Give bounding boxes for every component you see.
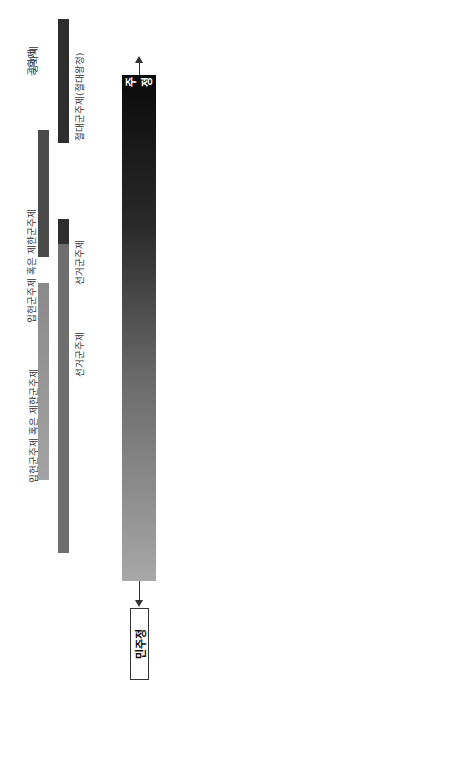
bar-absolute-monarchy: [58, 19, 69, 143]
bar-republic: [38, 283, 49, 480]
label-republic: 공화제: [24, 49, 38, 76]
bar-constitutional-monarchy: [38, 130, 49, 257]
label-elective-monarchy: 선거군주제: [72, 332, 86, 377]
bar-elective-monarchy: [58, 244, 69, 378]
diagram: 공화제 선거군주제 입헌군주제 혹은 제한군주제 절대군주제(절대왕정): [0, 0, 466, 773]
label-constitutional-monarchy: 입헌군주제 혹은 제한군주제: [24, 209, 38, 323]
label-absolute-monarchy: 절대군주제(절대왕정): [72, 53, 86, 141]
